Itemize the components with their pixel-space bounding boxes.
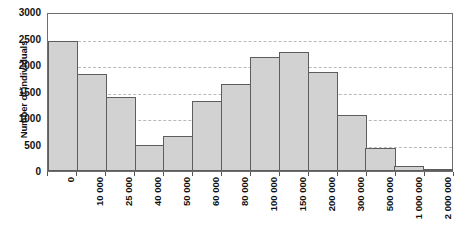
x-tick-label: 60 000 [211,177,221,237]
figure-caption [120,231,420,239]
x-axis-tick-labels: 010 00025 00040 00050 00060 00080 000100… [47,177,453,235]
x-tick-label: 80 000 [240,177,250,237]
x-tick-mark [424,172,425,176]
x-tick-mark [192,172,193,176]
x-tick-label: 1 000 000 [414,177,424,237]
x-tick-mark [250,172,251,176]
y-tick-label: 3000 [7,8,41,18]
x-tick-label: 200 000 [327,177,337,237]
bar [279,52,309,171]
x-tick-mark [221,172,222,176]
bar-series [48,14,452,171]
x-tick-mark [105,172,106,176]
x-tick-mark [279,172,280,176]
bar [163,136,193,172]
x-tick-mark [163,172,164,176]
y-tick-label: 500 [7,141,41,151]
x-tick-mark [134,172,135,176]
bar [337,115,367,171]
y-tick-label: 2500 [7,35,41,45]
bar [106,97,136,171]
bar [308,72,338,171]
bar [135,145,165,171]
x-tick-mark [453,172,454,176]
plot-area [47,13,453,172]
y-tick-label: 1500 [7,88,41,98]
x-tick-mark [395,172,396,176]
bar [394,166,424,171]
bar [77,74,107,171]
histogram-figure: Number of individuals 050010001500200025… [0,0,459,239]
y-tick-label: 0 [7,167,41,177]
x-tick-label: 40 000 [153,177,163,237]
x-tick-label: 500 000 [385,177,395,237]
y-tick-label: 1000 [7,114,41,124]
x-tick-label: 2 000 000 [443,177,453,237]
x-tick-mark [366,172,367,176]
x-tick-mark [76,172,77,176]
bar [48,41,78,171]
x-tick-mark [47,172,48,176]
x-tick-label: 150 000 [298,177,308,237]
x-tick-label: 0 [66,177,76,237]
y-axis-tick-labels: 050010001500200025003000 [0,0,41,239]
x-tick-label: 100 000 [269,177,279,237]
bar [221,84,251,171]
x-tick-label: 10 000 [95,177,105,237]
x-tick-label: 50 000 [182,177,192,237]
bar [365,148,395,171]
bar [250,57,280,171]
x-tick-label: 300 000 [356,177,366,237]
y-tick-label: 2000 [7,61,41,71]
bar [423,169,453,171]
x-tick-mark [337,172,338,176]
bar [192,101,222,171]
x-tick-label: 25 000 [124,177,134,237]
x-tick-mark [308,172,309,176]
